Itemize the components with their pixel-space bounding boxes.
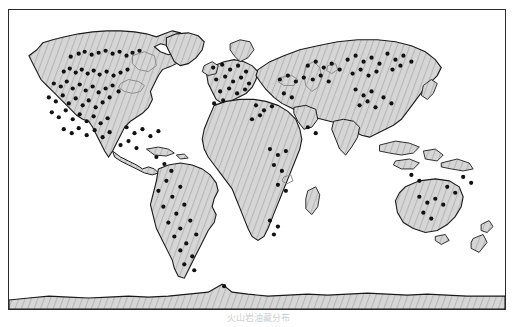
reservoir-dot [178,185,182,189]
reservoir-dot [110,83,114,87]
reservoir-dot [110,52,114,56]
reservoir-dot [156,189,160,193]
reservoir-dot [401,54,405,58]
reservoir-dot [294,79,298,83]
reservoir-dot [190,254,194,258]
reservoir-dot [284,189,288,193]
reservoir-dot [461,175,465,179]
reservoir-dot [212,101,216,105]
reservoir-dot [192,268,196,272]
reservoir-dot [85,133,89,137]
reservoir-dot [99,121,103,125]
reservoir-dot [390,68,394,72]
reservoir-dot [97,51,101,55]
reservoir-dot [272,163,276,167]
reservoir-dot [272,232,276,236]
reservoir-dot [154,155,158,159]
reservoir-dot [278,77,282,81]
reservoir-dot [361,60,365,64]
reservoir-dot [83,50,87,54]
reservoir-dot [254,103,258,107]
reservoir-dot [268,147,272,151]
reservoir-dot [111,73,115,77]
reservoir-dot [108,95,112,99]
map-frame [8,9,506,310]
reservoir-dot [124,125,128,129]
reservoir-dot [70,131,74,135]
reservoir-dot [137,49,141,53]
world-map [9,10,505,309]
reservoir-dot [222,284,226,288]
reservoir-dot [417,179,421,183]
reservoir-dot [62,70,66,74]
reservoir-dot [162,162,166,166]
reservoir-dot [104,49,108,53]
reservoir-dot [211,66,215,70]
reservoir-dot [354,87,358,91]
reservoir-dot [67,101,71,105]
reservoir-dot [59,84,63,88]
reservoir-dot [262,108,266,112]
reservoir-dot [351,71,355,75]
reservoir-dot [80,68,84,72]
reservoir-dot [243,87,247,91]
reservoir-dot [104,86,108,90]
reservoir-dot [280,169,284,173]
reservoir-dot [77,126,81,130]
reservoir-dot [140,127,144,131]
reservoir-dot [258,113,262,117]
reservoir-dot [71,86,75,90]
reservoir-dot [98,72,102,76]
reservoir-dot [227,86,231,90]
reservoir-dot [314,131,318,135]
reservoir-dot [282,91,286,95]
reservoir-dot [441,203,445,207]
reservoir-dot [93,128,97,132]
reservoir-dot [74,96,78,100]
reservoir-dot [68,67,72,71]
reservoir-dot [385,52,389,56]
reservoir-dot [319,73,323,77]
reservoir-dot [105,70,109,74]
reservoir-dot [54,99,58,103]
reservoir-dot [172,234,176,238]
reservoir-dot [194,232,198,236]
reservoir-dot [184,241,188,245]
reservoir-dot [117,50,121,54]
reservoir-dot [369,89,373,93]
reservoir-dot [306,64,310,68]
reservoir-dot [220,63,224,67]
reservoir-dot [389,101,393,105]
reservoir-dot [306,125,310,129]
reservoir-dot [84,88,88,92]
figure-container: 火山岩油藏分布区 火山岩油藏分布 [0,0,517,327]
reservoir-dot [235,91,239,95]
reservoir-dot [425,201,429,205]
reservoir-dot [188,219,192,223]
reservoir-dot [268,219,272,223]
reservoir-dot [124,54,128,58]
reservoir-dot [358,68,362,72]
reservoir-dot [377,62,381,66]
reservoir-dot [164,179,168,183]
reservoir-dot [64,108,68,112]
reservoir-dot [354,54,358,58]
reservoir-dot [221,98,225,102]
reservoir-dot [327,79,331,83]
reservoir-dot [330,62,334,66]
reservoir-dot [218,89,222,93]
reservoir-dot [276,183,280,187]
reservoir-dot [445,185,449,189]
reservoir-dot [338,68,342,72]
reservoir-dot [276,224,280,228]
reservoir-dot [469,181,473,185]
reservoir-dot [132,131,136,135]
reservoir-dot [161,205,165,209]
reservoir-dot [62,127,66,131]
reservoir-dot [228,68,232,72]
reservoir-dot [118,70,122,74]
reservoir-dot [393,58,397,62]
reservoir-dot [250,117,254,121]
reservoir-dot [398,64,402,68]
reservoir-dot [92,69,96,73]
